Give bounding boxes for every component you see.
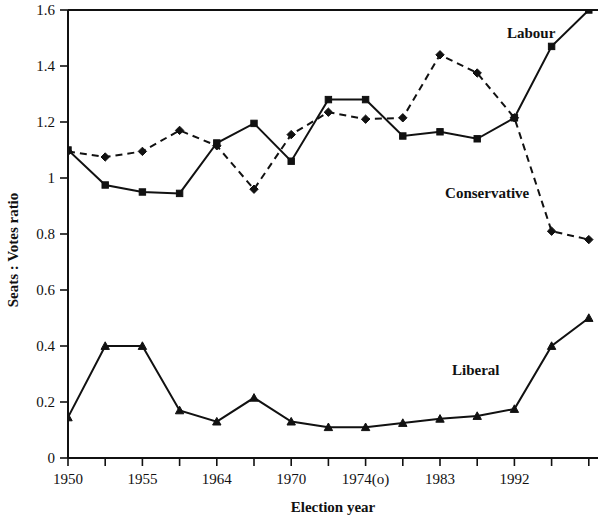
data-point-marker	[101, 153, 109, 161]
data-point-marker	[102, 182, 108, 188]
chart-plot-area: 00.20.40.60.811.21.41.6 1950195519641970…	[0, 0, 601, 530]
x-tick-label: 1964	[202, 471, 233, 487]
series-liberal	[64, 314, 593, 431]
data-point-marker	[437, 129, 443, 135]
data-point-marker	[176, 190, 182, 196]
data-point-marker	[399, 114, 407, 122]
x-tick-label: 1974(o)	[342, 471, 390, 488]
y-tick-label: 0	[48, 450, 56, 466]
x-axis-ticks	[68, 458, 589, 466]
series-inline-labels: LabourConservativeLiberal	[445, 25, 556, 378]
data-point-marker	[585, 314, 593, 322]
y-tick-label: 1	[48, 170, 56, 186]
x-tick-label: 1970	[276, 471, 306, 487]
data-point-marker	[474, 136, 480, 142]
y-tick-label: 0.2	[36, 394, 55, 410]
y-axis-title: Seats : Votes ratio	[5, 193, 21, 308]
data-point-marker	[139, 189, 145, 195]
data-point-marker	[585, 235, 593, 243]
data-point-marker	[400, 133, 406, 139]
data-point-marker	[586, 7, 592, 13]
x-tick-label: 1950	[53, 471, 83, 487]
data-point-marker	[547, 227, 555, 235]
y-tick-label: 1.2	[36, 114, 55, 130]
y-axis-tick-labels: 00.20.40.60.811.21.41.6	[36, 2, 55, 466]
y-tick-label: 0.8	[36, 226, 55, 242]
series-line	[68, 55, 589, 240]
data-point-marker	[362, 96, 368, 102]
y-tick-label: 0.4	[36, 338, 55, 354]
x-tick-label: 1955	[127, 471, 157, 487]
y-tick-label: 1.6	[36, 2, 55, 18]
x-axis-tick-labels: 19501955196419701974(o)19831992	[53, 471, 529, 488]
series-conservative	[64, 51, 593, 244]
data-point-marker	[138, 147, 146, 155]
data-point-marker	[324, 108, 332, 116]
seats-votes-ratio-chart: 00.20.40.60.811.21.41.6 1950195519641970…	[0, 0, 601, 530]
x-axis-title: Election year	[291, 499, 376, 515]
data-series-group	[64, 7, 593, 431]
data-point-marker	[175, 406, 183, 414]
series-label-labour: Labour	[507, 25, 556, 41]
data-point-marker	[436, 51, 444, 59]
series-label-conservative: Conservative	[445, 185, 529, 201]
x-tick-label: 1992	[499, 471, 529, 487]
data-point-marker	[288, 158, 294, 164]
x-tick-label: 1983	[425, 471, 455, 487]
data-point-marker	[64, 413, 72, 421]
data-point-marker	[250, 394, 258, 402]
y-tick-label: 1.4	[36, 58, 55, 74]
y-tick-label: 0.6	[36, 282, 55, 298]
data-point-marker	[175, 126, 183, 134]
data-point-marker	[251, 120, 257, 126]
y-axis-ticks	[60, 10, 68, 458]
data-point-marker	[361, 115, 369, 123]
series-label-liberal: Liberal	[452, 362, 500, 378]
data-point-marker	[548, 43, 554, 49]
data-point-marker	[325, 96, 331, 102]
